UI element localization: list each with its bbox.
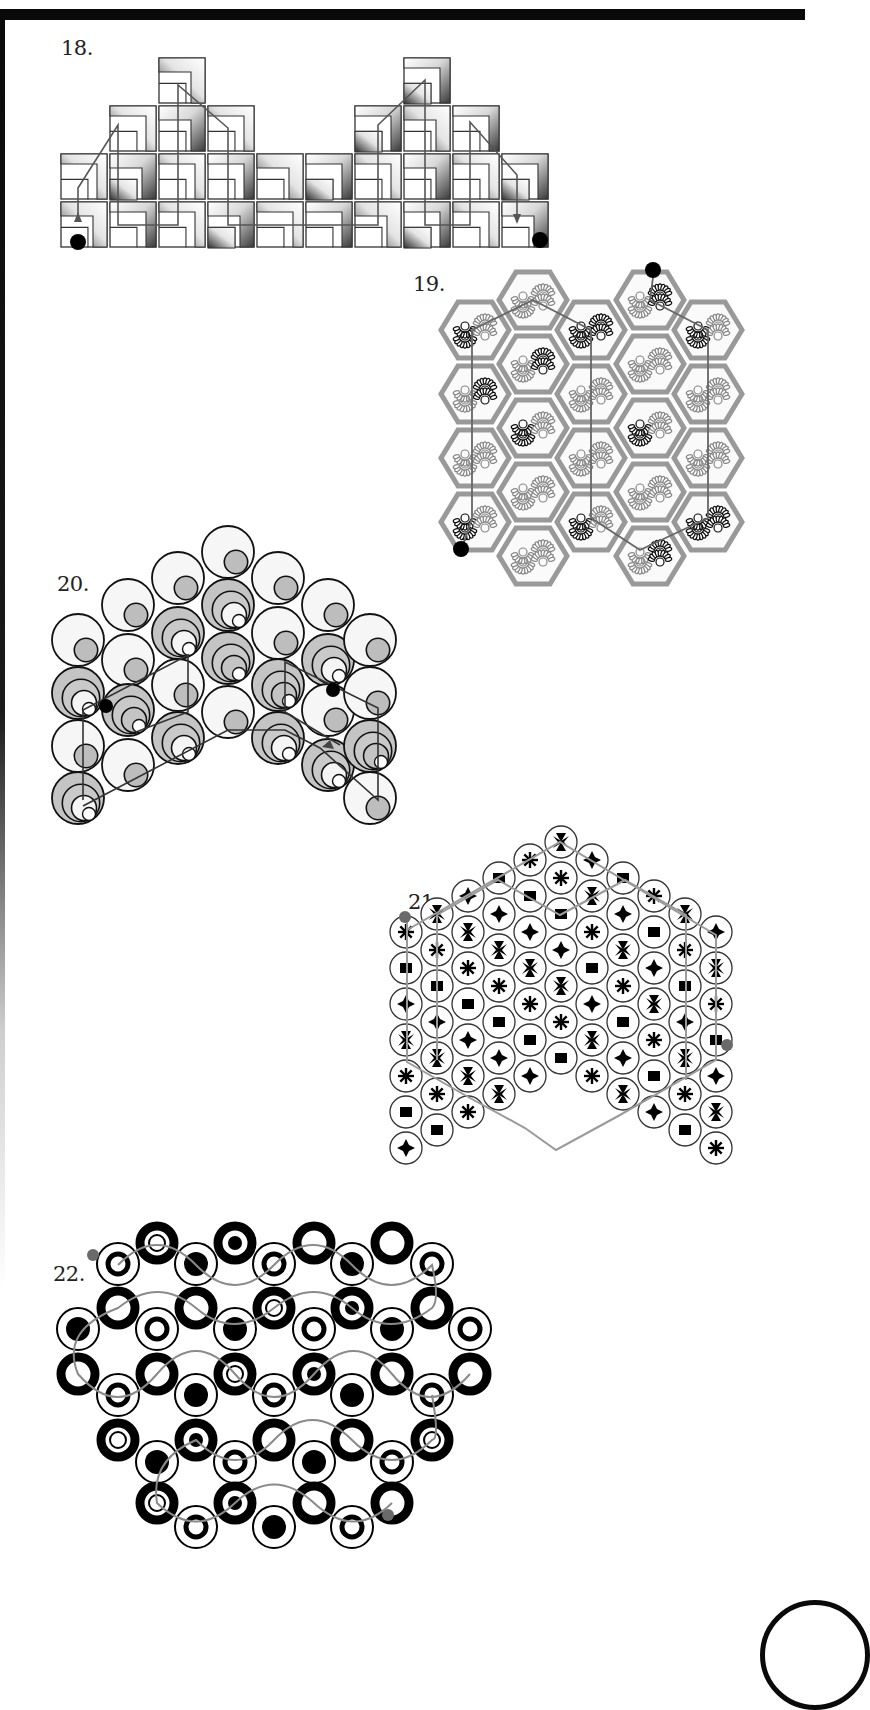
ring-circle-maze <box>0 0 805 1635</box>
puzzle-22: 22. <box>0 0 805 1635</box>
